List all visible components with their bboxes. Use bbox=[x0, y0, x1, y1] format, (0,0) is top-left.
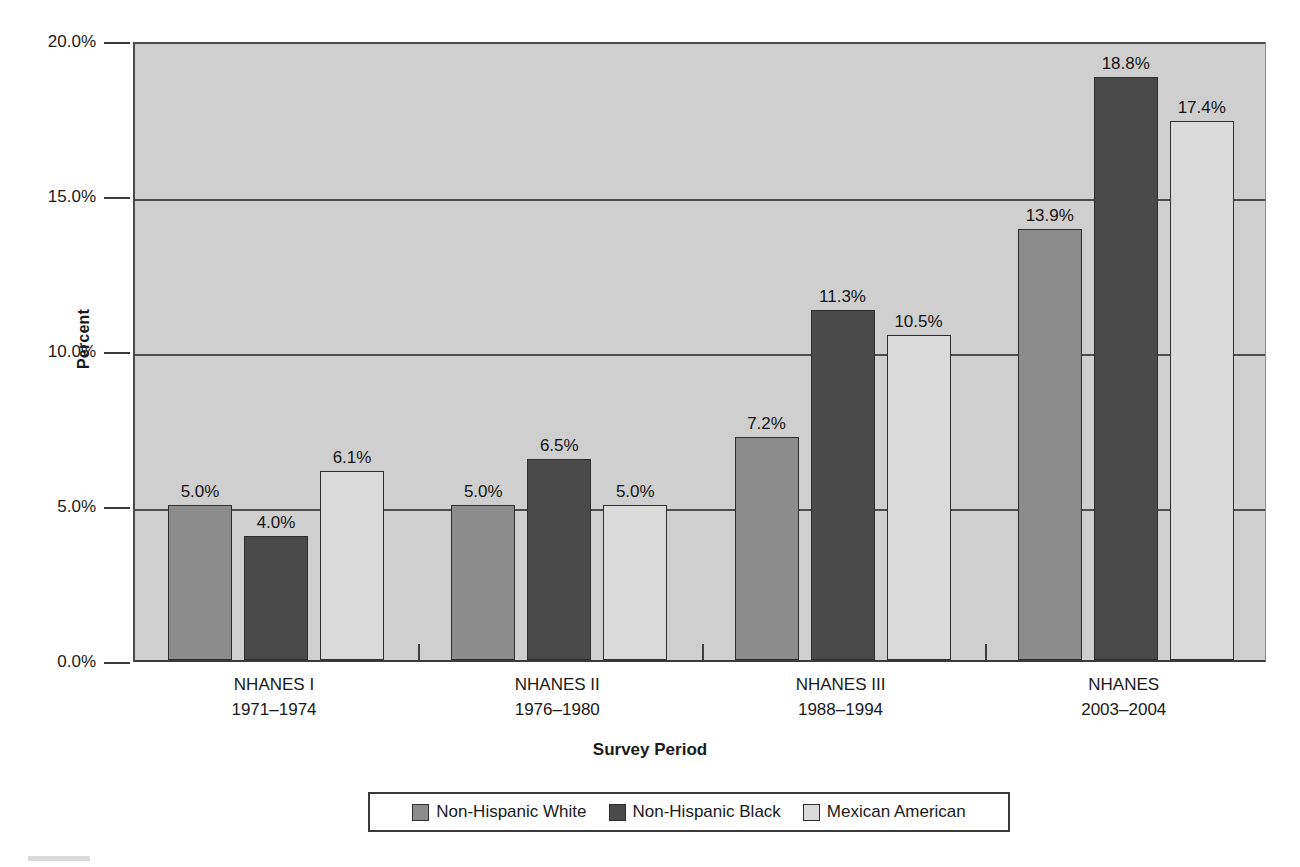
bar-non-hispanic-black-group-3[interactable] bbox=[811, 310, 875, 660]
bar-value-label: 6.5% bbox=[540, 436, 579, 456]
bar-value-label: 5.0% bbox=[181, 482, 220, 502]
bar-value-label: 4.0% bbox=[257, 513, 296, 533]
legend-swatch-icon bbox=[609, 804, 626, 821]
bar-group: 5.0%6.5%5.0% bbox=[418, 44, 701, 660]
x-axis-category-label: NHANES I1971–1974 bbox=[231, 672, 316, 722]
bar-mexican-american-group-2[interactable] bbox=[603, 505, 667, 660]
legend-swatch-icon bbox=[412, 804, 429, 821]
x-axis-category-label: NHANES II1976–1980 bbox=[515, 672, 600, 722]
legend-item-mexican-american[interactable]: Mexican American bbox=[803, 802, 966, 822]
bar-group: 5.0%4.0%6.1% bbox=[135, 44, 418, 660]
y-axis-tick-mark bbox=[104, 507, 130, 509]
legend-swatch-icon bbox=[803, 804, 820, 821]
bar-value-label: 17.4% bbox=[1178, 98, 1226, 118]
legend-item-non-hispanic-black[interactable]: Non-Hispanic Black bbox=[609, 802, 781, 822]
bar-value-label: 5.0% bbox=[464, 482, 503, 502]
legend-item-non-hispanic-white[interactable]: Non-Hispanic White bbox=[412, 802, 586, 822]
x-axis-title: Survey Period bbox=[0, 740, 1300, 760]
bar-value-label: 7.2% bbox=[747, 414, 786, 434]
y-axis-tick-mark bbox=[104, 352, 130, 354]
legend: Non-Hispanic WhiteNon-Hispanic BlackMexi… bbox=[368, 792, 1010, 832]
bar-group: 7.2%11.3%10.5% bbox=[702, 44, 985, 660]
bar-value-label: 10.5% bbox=[894, 312, 942, 332]
legend-label: Non-Hispanic White bbox=[436, 802, 586, 822]
y-axis-tick-label: 0.0% bbox=[0, 652, 96, 672]
category-years: 1988–1994 bbox=[796, 697, 886, 722]
y-axis-tick-mark bbox=[104, 197, 130, 199]
bar-group: 13.9%18.8%17.4% bbox=[985, 44, 1268, 660]
bar-value-label: 5.0% bbox=[616, 482, 655, 502]
bar-non-hispanic-black-group-2[interactable] bbox=[527, 459, 591, 661]
category-name: NHANES III bbox=[796, 672, 886, 697]
y-axis-tick-mark bbox=[104, 42, 130, 44]
bar-value-label: 6.1% bbox=[333, 448, 372, 468]
y-axis-tick-label: 10.0% bbox=[0, 342, 96, 362]
bar-value-label: 13.9% bbox=[1026, 206, 1074, 226]
category-name: NHANES bbox=[1081, 672, 1166, 697]
bar-non-hispanic-black-group-4[interactable] bbox=[1094, 77, 1158, 660]
y-axis-tick-mark bbox=[104, 662, 130, 664]
category-years: 1976–1980 bbox=[515, 697, 600, 722]
group-divider-tick bbox=[985, 644, 987, 660]
bar-mexican-american-group-1[interactable] bbox=[320, 471, 384, 660]
y-axis-tick-label: 5.0% bbox=[0, 497, 96, 517]
category-name: NHANES I bbox=[231, 672, 316, 697]
bar-non-hispanic-white-group-2[interactable] bbox=[451, 505, 515, 660]
bar-value-label: 18.8% bbox=[1102, 54, 1150, 74]
x-axis-category-label: NHANES III1988–1994 bbox=[796, 672, 886, 722]
plot-area: 5.0%4.0%6.1%5.0%6.5%5.0%7.2%11.3%10.5%13… bbox=[133, 42, 1266, 662]
group-divider-tick bbox=[702, 644, 704, 660]
bar-chart: Percent 0.0%5.0%10.0%15.0%20.0% 5.0%4.0%… bbox=[0, 0, 1300, 867]
legend-label: Mexican American bbox=[827, 802, 966, 822]
group-divider-tick bbox=[418, 644, 420, 660]
y-axis-title: Percent bbox=[75, 269, 93, 409]
y-axis-tick-label: 15.0% bbox=[0, 187, 96, 207]
bar-non-hispanic-white-group-1[interactable] bbox=[168, 505, 232, 660]
category-years: 2003–2004 bbox=[1081, 697, 1166, 722]
bar-non-hispanic-white-group-3[interactable] bbox=[735, 437, 799, 660]
bar-non-hispanic-black-group-1[interactable] bbox=[244, 536, 308, 660]
bar-mexican-american-group-4[interactable] bbox=[1170, 121, 1234, 660]
scan-artifact bbox=[28, 856, 90, 861]
legend-label: Non-Hispanic Black bbox=[633, 802, 781, 822]
bar-non-hispanic-white-group-4[interactable] bbox=[1018, 229, 1082, 660]
bar-value-label: 11.3% bbox=[819, 287, 866, 307]
x-axis-category-label: NHANES2003–2004 bbox=[1081, 672, 1166, 722]
bar-mexican-american-group-3[interactable] bbox=[887, 335, 951, 661]
category-years: 1971–1974 bbox=[231, 697, 316, 722]
y-axis-tick-label: 20.0% bbox=[0, 32, 96, 52]
category-name: NHANES II bbox=[515, 672, 600, 697]
